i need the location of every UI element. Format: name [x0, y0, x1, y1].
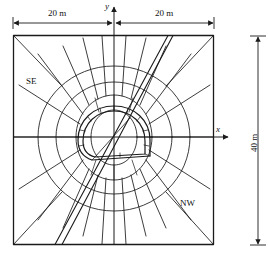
- figure-canvas: 20 m 20 m 40 m y x SE NW: [0, 0, 268, 263]
- dim-label-top-left: 20 m: [48, 9, 66, 18]
- mesh-diagram-svg: [0, 0, 268, 263]
- dim-label-right: 40 m: [250, 134, 259, 152]
- region-label-se: SE: [26, 77, 37, 86]
- region-label-nw: NW: [180, 199, 195, 208]
- x-axis-label: x: [216, 125, 220, 134]
- dim-label-top-right: 20 m: [155, 9, 173, 18]
- y-axis-label: y: [105, 2, 109, 11]
